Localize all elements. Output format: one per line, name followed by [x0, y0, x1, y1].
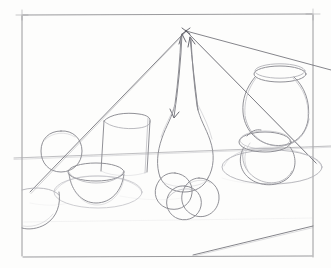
sketch-artboard: Still Life Pencil Sketch with One-Point … — [0, 0, 331, 268]
still-life-sketch: Still Life Pencil Sketch with One-Point … — [0, 0, 331, 268]
